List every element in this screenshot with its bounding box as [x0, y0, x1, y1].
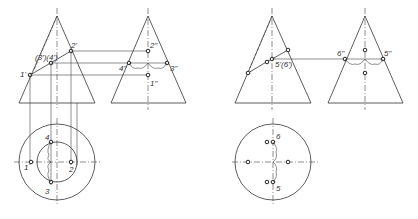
label-3-top: 3 — [45, 187, 50, 196]
label-2-side: 2" — [149, 41, 158, 50]
label-6-side: 6" — [337, 49, 345, 58]
label-1-side: 1" — [150, 79, 158, 88]
right-top-view: 6 5 — [232, 118, 318, 206]
left-front-view: 1' (3')(4') 2' — [19, 8, 168, 185]
label-34-front: (3')(4') — [35, 53, 58, 62]
label-4-top: 4 — [45, 133, 50, 142]
label-1-top: 1 — [24, 163, 28, 172]
label-3-side: 3" — [170, 64, 178, 73]
left-top-view: 1 2 3 4 — [14, 118, 100, 206]
label-6-top: 6 — [276, 132, 281, 141]
label-4-side: 4" — [119, 64, 127, 73]
label-5-side: 5" — [384, 49, 392, 58]
cone-section-drawing: 1' (3')(4') 2' 2" 4" 3" 1" — [0, 0, 418, 219]
label-2-top: 2 — [68, 165, 74, 174]
label-5-top: 5 — [276, 184, 281, 193]
label-56-front: 5'(6') — [275, 60, 293, 69]
left-side-view: 2" 4" 3" 1" — [111, 8, 186, 110]
right-front-view: 5'(6') — [235, 8, 383, 110]
label-2-front: 2' — [70, 41, 77, 50]
technical-drawing: 1' (3')(4') 2' 2" 4" 3" 1" — [0, 0, 418, 219]
label-1-front: 1' — [20, 70, 26, 79]
